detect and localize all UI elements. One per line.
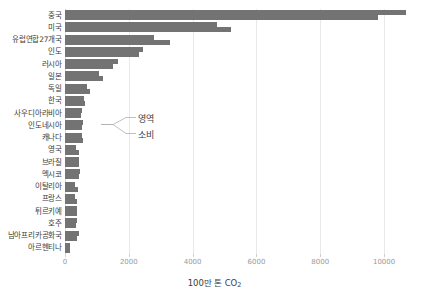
x-tick-label-10000: 10000 <box>373 258 395 266</box>
bar-group <box>65 133 416 143</box>
x-tick-label-6000: 6000 <box>248 258 266 266</box>
x-tick-label-4000: 4000 <box>184 258 202 266</box>
y-axis-label-11: 영국 <box>0 145 62 154</box>
x-tick-mark-8000 <box>320 254 321 257</box>
bar-group <box>65 22 416 32</box>
bar-group <box>65 231 416 241</box>
y-axis-label-15: 프랑스 <box>0 194 62 203</box>
bar-consumption <box>65 15 378 20</box>
plot-area <box>65 9 416 254</box>
bar-group <box>65 206 416 216</box>
bar-group <box>65 243 416 253</box>
bar-group <box>65 120 416 130</box>
x-tick-label-8000: 8000 <box>311 258 329 266</box>
y-axis-label-7: 한국 <box>0 96 62 105</box>
y-axis-label-0: 중국 <box>0 11 62 20</box>
bar-consumption <box>65 52 139 57</box>
bar-consumption <box>65 64 113 69</box>
x-tick-mark-0 <box>65 254 66 257</box>
y-axis-label-18: 남아프리카공화국 <box>0 231 62 240</box>
bar-consumption <box>65 125 82 130</box>
bar-group <box>65 194 416 204</box>
y-axis-label-12: 브라질 <box>0 158 62 167</box>
bar-consumption <box>65 174 79 179</box>
y-axis-label-13: 멕시코 <box>0 170 62 179</box>
bar-group <box>65 84 416 94</box>
x-axis-ticks: 0200040006000800010000 <box>65 254 416 270</box>
x-axis-title-subscript: 2 <box>237 281 241 289</box>
y-axis-label-19: 아르헨티나 <box>0 243 62 252</box>
y-axis-label-6: 독일 <box>0 84 62 93</box>
bars-layer <box>65 9 416 254</box>
bar-group <box>65 182 416 192</box>
bar-group <box>65 35 416 45</box>
x-axis-title-text: 100만 톤 CO <box>188 278 237 288</box>
bar-consumption <box>65 187 78 192</box>
y-axis-category-labels: 중국미국유럽연합27개국인도러시아일본독일한국사우디아라비아인도네시아캐나다영국… <box>0 9 62 254</box>
bar-group <box>65 59 416 69</box>
bar-group <box>65 169 416 179</box>
y-axis-label-3: 인도 <box>0 47 62 56</box>
bar-group <box>65 157 416 167</box>
bar-consumption <box>65 113 81 118</box>
bar-consumption <box>65 223 76 228</box>
x-tick-label-0: 0 <box>63 258 67 266</box>
x-tick-label-2000: 2000 <box>120 258 138 266</box>
bar-consumption <box>65 101 85 106</box>
y-axis-label-10: 캐나다 <box>0 133 62 142</box>
bar-group <box>65 145 416 155</box>
bar-consumption <box>65 40 170 45</box>
bar-group <box>65 47 416 57</box>
y-axis-label-17: 호주 <box>0 219 62 228</box>
bar-consumption <box>65 248 70 253</box>
y-axis-label-2: 유럽연합27개국 <box>0 35 62 44</box>
bar-group <box>65 71 416 81</box>
bar-consumption <box>65 138 83 143</box>
bar-consumption <box>65 150 79 155</box>
x-tick-mark-4000 <box>193 254 194 257</box>
bar-consumption <box>65 89 90 94</box>
bar-consumption <box>65 27 231 32</box>
y-axis-label-16: 튀르키예 <box>0 207 62 216</box>
bar-group <box>65 218 416 228</box>
y-axis-label-4: 러시아 <box>0 60 62 69</box>
y-axis-label-14: 이탈리아 <box>0 182 62 191</box>
chart-container: 중국미국유럽연합27개국인도러시아일본독일한국사우디아라비아인도네시아캐나다영국… <box>0 0 429 301</box>
bar-group <box>65 108 416 118</box>
bar-consumption <box>65 236 77 241</box>
y-axis-label-8: 사우디아라비아 <box>0 109 62 118</box>
x-tick-mark-10000 <box>384 254 385 257</box>
bar-group <box>65 10 416 20</box>
bar-group <box>65 96 416 106</box>
y-axis-label-9: 인도네시아 <box>0 121 62 130</box>
bar-consumption <box>65 76 103 81</box>
y-axis-label-5: 일본 <box>0 72 62 81</box>
x-axis-title: 100만 톤 CO2 <box>0 276 429 289</box>
x-tick-mark-2000 <box>129 254 130 257</box>
bar-consumption <box>65 211 77 216</box>
bar-consumption <box>65 199 77 204</box>
y-axis-label-1: 미국 <box>0 23 62 32</box>
x-tick-mark-6000 <box>256 254 257 257</box>
bar-consumption <box>65 162 79 167</box>
